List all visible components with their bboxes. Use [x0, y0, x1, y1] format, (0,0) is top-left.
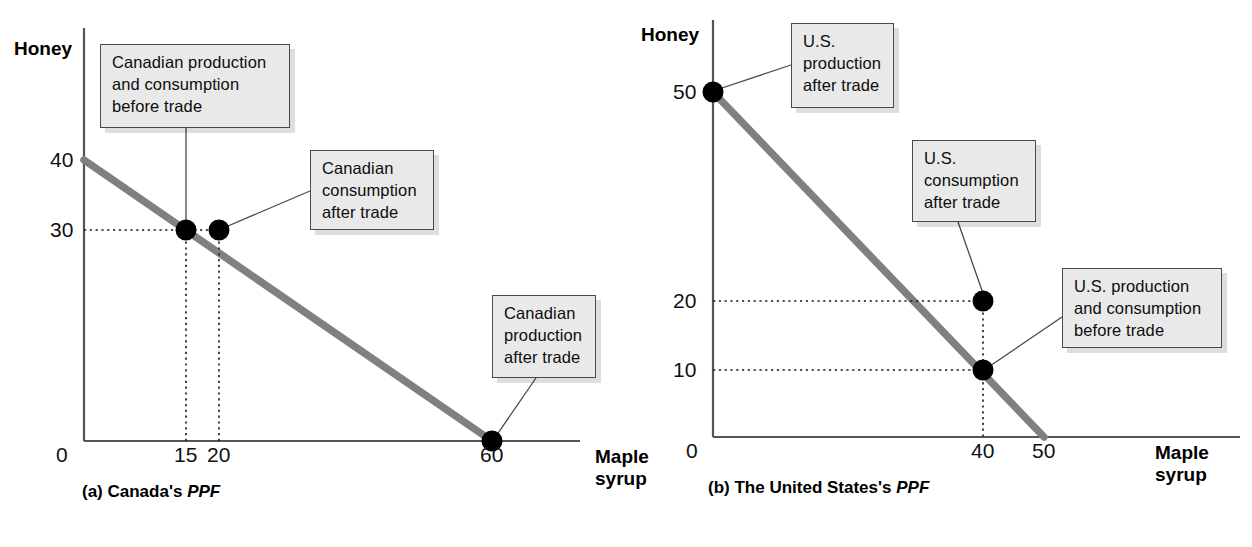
callout-canada-production-after-trade: Canadian production after trade	[492, 295, 596, 378]
ppf-comparison-figure: Honey Maple syrup 0 40 30 15 20 60 (a) C…	[0, 0, 1252, 547]
callout-us-before-trade-line1: U.S. production	[1074, 276, 1212, 298]
canada-panel-caption: (a) Canada's PPF	[82, 482, 220, 502]
callout-canada-consumption-after-trade: Canadian consumption after trade	[310, 150, 434, 230]
us-point-production-after-trade	[703, 82, 724, 103]
us-y-tick-10: 10	[673, 358, 696, 382]
us-caption-ppf: PPF	[896, 478, 929, 497]
us-x-tick-40: 40	[971, 439, 994, 463]
callout-us-before-trade-line2: and consumption	[1074, 298, 1212, 320]
us-point-before-trade	[973, 360, 994, 381]
us-y-axis-title: Honey	[641, 24, 699, 46]
callout-canada-production-line2: production	[504, 325, 586, 347]
callout-us-production-line3: after trade	[803, 75, 884, 97]
callout-us-production-line2: production	[803, 53, 884, 75]
canada-point-before-trade	[176, 220, 197, 241]
us-point-consumption-after-trade	[973, 291, 994, 312]
us-y-tick-50: 50	[673, 80, 696, 104]
canada-y-tick-30: 30	[50, 218, 73, 242]
us-x-tick-50: 50	[1032, 439, 1055, 463]
us-leader-production-after-trade	[716, 65, 791, 90]
us-origin-label: 0	[686, 439, 698, 463]
callout-us-production-after-trade: U.S. production after trade	[791, 23, 894, 108]
us-x-axis-title: Maple syrup	[1155, 442, 1209, 486]
callout-us-before-trade: U.S. production and consumption before t…	[1062, 268, 1222, 348]
us-panel-graphics	[703, 20, 1241, 437]
callout-canada-production-line1: Canadian	[504, 303, 586, 325]
canada-origin-label: 0	[56, 443, 68, 467]
callout-us-consumption-line1: U.S.	[924, 148, 1026, 170]
us-leader-consumption-after-trade	[958, 222, 985, 299]
us-leader-before-trade	[987, 317, 1062, 368]
callout-us-consumption-after-trade: U.S. consumption after trade	[912, 140, 1036, 222]
callout-canada-production-line3: after trade	[504, 347, 586, 369]
callout-canada-consumption-line1: Canadian	[322, 158, 424, 180]
canada-x-tick-15: 15	[174, 443, 197, 467]
callout-canada-before-trade-line3: before trade	[112, 96, 280, 118]
canada-x-tick-20: 20	[207, 443, 230, 467]
callout-canada-before-trade: Canadian production and consumption befo…	[100, 44, 290, 128]
canada-x-axis-title: Maple syrup	[595, 446, 649, 490]
canada-leader-production-after-trade	[494, 378, 536, 439]
canada-x-tick-60: 60	[480, 443, 503, 467]
callout-canada-consumption-line2: consumption	[322, 180, 424, 202]
callout-canada-before-trade-line2: and consumption	[112, 74, 280, 96]
canada-y-axis-title: Honey	[14, 38, 72, 60]
canada-x-axis-title-line1: Maple	[595, 446, 649, 468]
canada-caption-ppf: PPF	[187, 482, 220, 501]
us-panel-caption: (b) The United States's PPF	[708, 478, 929, 498]
canada-point-consumption-after-trade	[209, 220, 230, 241]
callout-us-consumption-line2: consumption	[924, 170, 1026, 192]
canada-y-tick-40: 40	[50, 148, 73, 172]
callout-us-production-line1: U.S.	[803, 31, 884, 53]
us-y-tick-20: 20	[673, 289, 696, 313]
callout-canada-before-trade-line1: Canadian production	[112, 52, 280, 74]
us-x-axis-title-line2: syrup	[1155, 464, 1209, 486]
callout-us-consumption-line3: after trade	[924, 192, 1026, 214]
canada-x-axis-title-line2: syrup	[595, 468, 649, 490]
canada-leader-consumption-after-trade	[221, 191, 310, 229]
callout-canada-consumption-line3: after trade	[322, 202, 424, 224]
callout-us-before-trade-line3: before trade	[1074, 320, 1212, 342]
us-x-axis-title-line1: Maple	[1155, 442, 1209, 464]
canada-caption-prefix: (a) Canada's	[82, 482, 187, 501]
us-caption-prefix: (b) The United States's	[708, 478, 896, 497]
